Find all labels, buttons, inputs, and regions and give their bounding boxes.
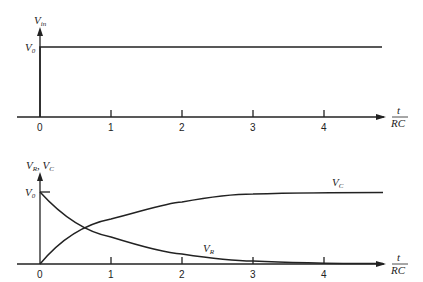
top-v0-label: V0	[25, 41, 36, 55]
top-x-axis-arrow-icon	[376, 114, 386, 120]
bottom-chart	[17, 172, 386, 267]
vin-curve	[40, 47, 382, 117]
bottom-xlabel: t RC	[390, 251, 408, 276]
top-tick-label-2: 2	[179, 122, 185, 133]
top-tick-label-1: 1	[108, 122, 114, 133]
svg-text:RC: RC	[390, 264, 406, 276]
svg-text:RC: RC	[390, 117, 406, 129]
top-y-axis-arrow-icon	[37, 27, 43, 36]
bottom-ylabel: VR, VC	[26, 159, 54, 173]
top-chart	[17, 27, 386, 120]
rc-circuit-diagram: Vin V0 0 1 2 3 4 t RC VR, VC V0 VC VR 0 …	[0, 0, 423, 282]
bottom-v0-label: V0	[25, 186, 36, 200]
vr-label: VR	[203, 242, 215, 256]
svg-text:t: t	[397, 251, 401, 263]
vc-label: VC	[332, 176, 344, 190]
bottom-tick-label-4: 4	[321, 269, 327, 280]
top-tick-label-4: 4	[321, 122, 327, 133]
bottom-tick-label-0: 0	[37, 269, 43, 280]
top-tick-label-0: 0	[37, 122, 43, 133]
top-xlabel: t RC	[390, 104, 408, 129]
top-tick-label-3: 3	[250, 122, 256, 133]
svg-text:t: t	[397, 104, 401, 116]
bottom-tick-label-2: 2	[179, 269, 185, 280]
bottom-y-axis-arrow-icon	[37, 172, 43, 181]
bottom-tick-label-1: 1	[108, 269, 114, 280]
top-ylabel: Vin	[34, 14, 47, 28]
bottom-tick-label-3: 3	[250, 269, 256, 280]
